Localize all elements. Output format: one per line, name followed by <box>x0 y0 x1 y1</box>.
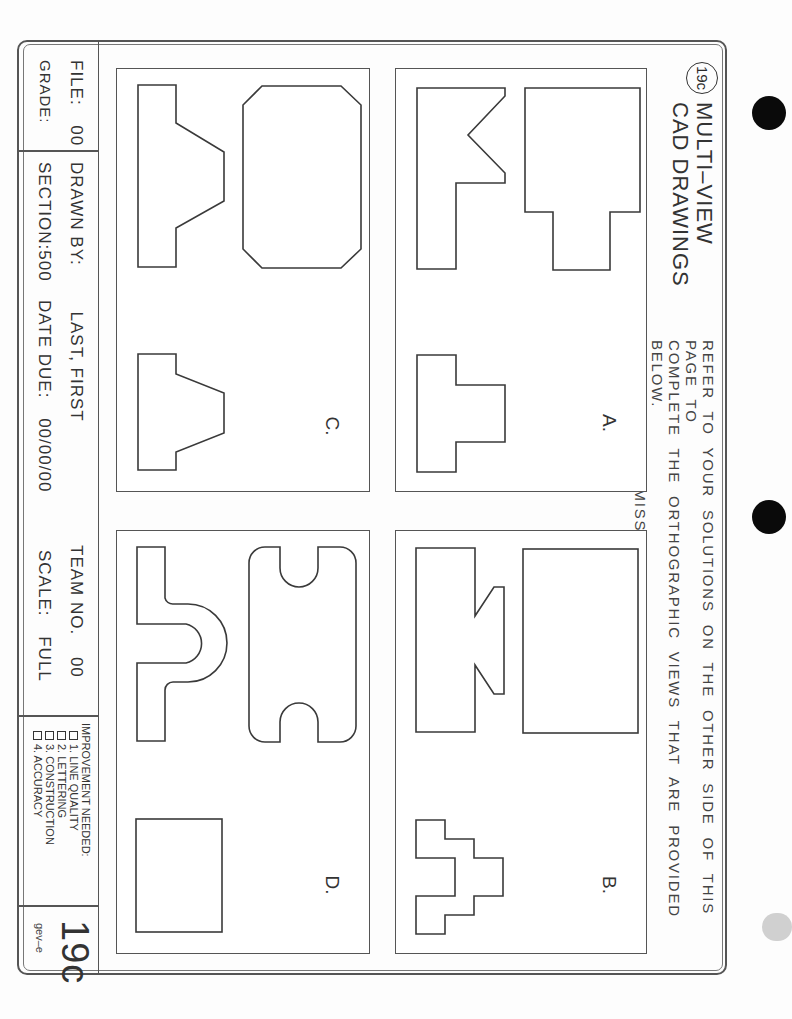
instruction-line: COMPLETE THE ORTHOGRAPHIC VIEWS THAT ARE… <box>649 340 683 960</box>
improvement-item-label: 3. CONSTRUCTION <box>44 744 56 845</box>
improvement-item-label: 1. LINE QUALITY <box>68 744 80 831</box>
scale-label: SCALE: <box>35 550 54 616</box>
checkbox[interactable] <box>45 731 54 740</box>
section-label: SECTION: <box>35 162 54 250</box>
title-block-divider <box>18 150 98 152</box>
panel-label-c: C. <box>321 417 343 436</box>
file-field: FILE: 00 <box>66 60 86 146</box>
drawn-by-field: DRAWN BY: LAST, FIRST <box>66 162 86 422</box>
sheet-header: 19c MULTI–VIEW CAD DRAWINGS REFER TO YOU… <box>637 40 727 975</box>
improvement-heading: IMPROVEMENT NEEDED: <box>80 723 92 857</box>
section-value: 500 <box>35 250 54 281</box>
section-field: SECTION:500 <box>34 162 54 282</box>
date-due-value: 00/00/00 <box>35 418 54 492</box>
scale-value: FULL <box>35 636 54 682</box>
instruction-line: REFER TO YOUR SOLUTIONS ON THE OTHER SID… <box>683 340 717 960</box>
file-value: 00 <box>67 125 86 146</box>
sheet-number: 19c <box>53 920 96 984</box>
drawn-by-label: DRAWN BY: <box>67 162 86 266</box>
title-line-1: MULTI–VIEW <box>691 102 717 245</box>
improvement-item: 1. LINE QUALITY <box>68 723 80 857</box>
panel-label-d: D. <box>321 876 343 895</box>
improvement-item: 2. LETTERING <box>56 723 68 857</box>
title-block-divider <box>18 715 98 717</box>
checkbox[interactable] <box>57 731 66 740</box>
checkbox[interactable] <box>69 731 78 740</box>
improvement-item: 4. ACCURACY <box>32 723 44 857</box>
punch-hole-middle <box>752 500 786 534</box>
file-label: FILE: <box>67 60 86 106</box>
drawn-by-value: LAST, FIRST <box>67 312 86 422</box>
team-label: TEAM NO. <box>67 545 86 635</box>
improvement-item-label: 4. ACCURACY <box>32 744 44 817</box>
punch-hole-top <box>752 96 786 130</box>
panel-label-b: B. <box>598 876 620 894</box>
improvement-item: 3. CONSTRUCTION <box>44 723 56 857</box>
grade-label: GRADE: <box>37 60 54 124</box>
team-value: 00 <box>67 657 86 678</box>
title-line-2: CAD DRAWINGS <box>667 102 693 287</box>
improvement-item-label: 2. LETTERING <box>56 744 68 818</box>
exercise-badge: 19c <box>686 62 718 94</box>
title-block: FILE: 00 GRADE: DRAWN BY: LAST, FIRST TE… <box>16 40 99 975</box>
panel-label-a: A. <box>598 414 620 432</box>
date-due-label: DATE DUE: <box>35 300 54 398</box>
scale-field: SCALE: FULL <box>34 550 54 682</box>
improvement-checklist: IMPROVEMENT NEEDED: 1. LINE QUALITY 2. L… <box>32 723 92 857</box>
title-block-divider <box>18 905 98 907</box>
checkbox[interactable] <box>33 731 42 740</box>
punch-hole-bottom <box>762 913 792 941</box>
sheet-code: gev–e <box>34 923 46 953</box>
date-due-field: DATE DUE: 00/00/00 <box>34 300 54 492</box>
drawing-sheet: 19c MULTI–VIEW CAD DRAWINGS REFER TO YOU… <box>17 40 727 975</box>
team-field: TEAM NO. 00 <box>66 545 86 678</box>
